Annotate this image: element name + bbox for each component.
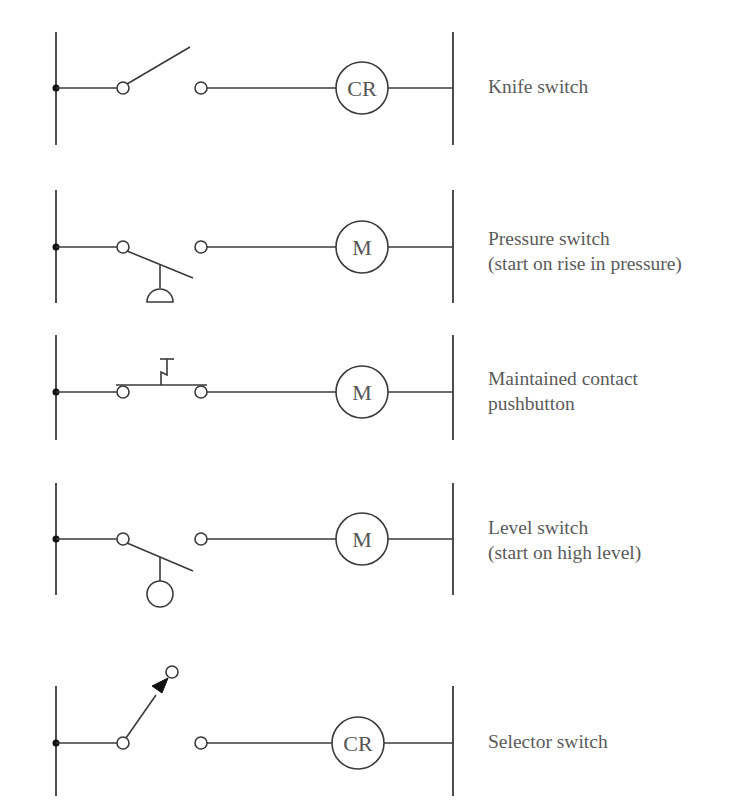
label-pressure-switch: Pressure switch (start on rise in pressu…	[488, 226, 682, 276]
label-selector-switch: Selector switch	[488, 729, 608, 754]
knife-switch-icon	[117, 47, 207, 94]
rung-pressure-switch: M	[53, 190, 454, 303]
pressure-switch-icon	[117, 241, 207, 302]
label-line: Maintained contact	[488, 366, 638, 391]
label-knife-switch: Knife switch	[488, 74, 588, 99]
rung-maintained-pushbutton: M	[53, 335, 454, 440]
label-line: (start on high level)	[488, 540, 641, 565]
coil-label: CR	[347, 76, 377, 101]
arrow-icon	[152, 678, 168, 693]
coil-icon: M	[336, 366, 388, 418]
selector-switch-icon	[117, 666, 207, 749]
label-level-switch: Level switch (start on high level)	[488, 515, 641, 565]
label-maintained-pushbutton: Maintained contact pushbutton	[488, 366, 638, 416]
label-line: Selector switch	[488, 729, 608, 754]
coil-icon: CR	[336, 62, 388, 114]
label-line: Pressure switch	[488, 226, 682, 251]
label-line: Level switch	[488, 515, 641, 540]
rung-level-switch: M	[53, 483, 454, 607]
rung-selector-switch: CR	[53, 666, 454, 796]
coil-icon: M	[336, 221, 388, 273]
coil-icon: M	[336, 513, 388, 565]
coil-icon: CR	[332, 717, 384, 769]
coil-label: CR	[343, 731, 373, 756]
coil-label: M	[352, 380, 372, 405]
maintained-pushbutton-icon	[116, 359, 207, 398]
level-switch-icon	[117, 533, 207, 607]
label-line: (start on rise in pressure)	[488, 251, 682, 276]
rung-knife-switch: CR	[53, 32, 454, 145]
label-line: Knife switch	[488, 74, 588, 99]
label-line: pushbutton	[488, 391, 638, 416]
coil-label: M	[352, 527, 372, 552]
coil-label: M	[352, 235, 372, 260]
